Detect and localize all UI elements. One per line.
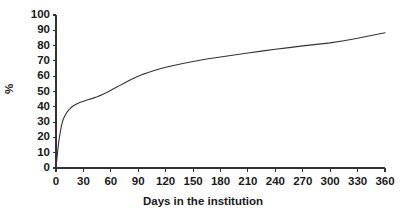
x-tick-label: 330 [348, 176, 367, 188]
data-series-line [56, 33, 385, 168]
x-tick-label: 90 [132, 176, 145, 188]
y-tick-label: 40 [37, 101, 50, 113]
y-tick-label: 20 [37, 132, 50, 144]
x-tick-label: 120 [156, 176, 175, 188]
chart-container: 0102030405060708090100 03060901201501802… [0, 0, 406, 217]
axes-group [56, 15, 385, 168]
y-tick-label: 10 [37, 147, 50, 159]
chart-plot-area [0, 0, 406, 217]
y-tick-label: 90 [37, 25, 50, 37]
y-axis-title: % [4, 84, 16, 94]
x-tick-label: 60 [104, 176, 117, 188]
y-tick-label: 0 [44, 162, 50, 174]
x-tick-label: 240 [266, 176, 285, 188]
x-tick-label: 0 [53, 176, 59, 188]
y-tick-label: 30 [37, 116, 50, 128]
y-tick-label: 80 [37, 40, 50, 52]
x-tick-label: 30 [77, 176, 90, 188]
y-tick-label: 70 [37, 55, 50, 67]
x-tick-label: 210 [238, 176, 257, 188]
x-tick-label: 180 [211, 176, 230, 188]
x-axis-title: Days in the institution [143, 196, 263, 208]
y-tick-label: 100 [31, 9, 50, 21]
y-tick-label: 50 [37, 86, 50, 98]
x-tick-label: 270 [293, 176, 312, 188]
x-tick-label: 300 [321, 176, 340, 188]
x-tick-label: 150 [183, 176, 202, 188]
x-tick-label: 360 [375, 176, 394, 188]
y-tick-label: 60 [37, 70, 50, 82]
